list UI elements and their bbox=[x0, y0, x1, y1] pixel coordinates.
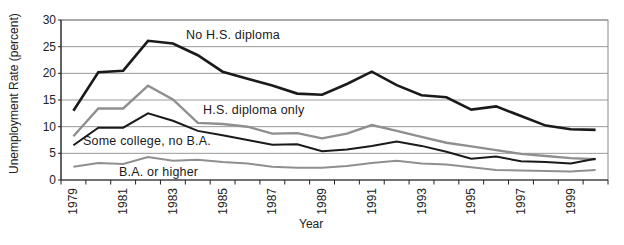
series-label-ba-or-higher: B.A. or higher bbox=[119, 165, 198, 179]
series-line-h-s-diploma-only bbox=[73, 86, 595, 160]
x-tick-label: 1981 bbox=[116, 188, 130, 215]
x-tick-label: 1991 bbox=[365, 188, 379, 215]
y-tick-label: 15 bbox=[43, 93, 57, 107]
x-tick-label: 1987 bbox=[265, 188, 279, 215]
x-tick-label: 1999 bbox=[564, 188, 578, 215]
x-tick-label: 1995 bbox=[464, 188, 478, 215]
y-tick-label: 25 bbox=[43, 40, 57, 54]
x-tick-label: 1979 bbox=[66, 188, 80, 215]
x-tick-label: 1989 bbox=[315, 188, 329, 215]
x-tick-label: 1985 bbox=[216, 188, 230, 215]
y-axis-title: Unemployment Rate (percent) bbox=[7, 16, 23, 174]
y-tick-label: 20 bbox=[43, 66, 57, 80]
line-chart-canvas: 0510152025301979198119831985198719891991… bbox=[0, 0, 624, 245]
y-tick-label: 5 bbox=[49, 146, 56, 160]
y-tick-label: 30 bbox=[43, 13, 57, 27]
series-line-no-h-s-diploma bbox=[73, 41, 595, 130]
y-tick-label: 0 bbox=[49, 173, 56, 187]
y-tick-label: 10 bbox=[43, 120, 57, 134]
unemployment-by-education-chart: 0510152025301979198119831985198719891991… bbox=[0, 0, 624, 245]
x-tick-label: 1997 bbox=[514, 188, 528, 215]
series-label-some-college: Some college, no B.A. bbox=[83, 134, 211, 148]
x-tick-label: 1983 bbox=[166, 188, 180, 215]
x-axis-title: Year bbox=[299, 217, 323, 231]
series-label-no-hs-diploma: No H.S. diploma bbox=[186, 28, 280, 42]
x-tick-label: 1993 bbox=[415, 188, 429, 215]
series-label-hs-diploma-only: H.S. diploma only bbox=[203, 103, 304, 117]
